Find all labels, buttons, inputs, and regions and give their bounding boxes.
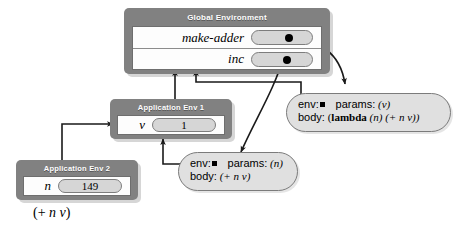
binding-row: inc	[133, 48, 321, 69]
application-env-1-frame: Application Env 1 v 1	[110, 99, 232, 139]
application-env-2-bindings: n 149	[23, 176, 131, 196]
procedure-inc-body-line: body: (+ n v)	[190, 170, 285, 183]
application-env-2-frame: Application Env 2 n 149	[16, 160, 138, 200]
binding-name-n: n	[45, 178, 59, 194]
binding-name-inc: inc	[228, 51, 251, 67]
params-label: params:	[336, 98, 376, 110]
procedure-inc[interactable]: env: params: (n) body: (+ n v)	[178, 152, 298, 191]
expression-vars: n v	[49, 205, 66, 220]
env-pointer-dot	[320, 102, 325, 107]
expression-text: (+ (+ n v)n v)	[33, 205, 70, 221]
body-value: (+ n v)	[220, 170, 251, 182]
pointer-dot-make-adder	[285, 34, 293, 42]
expression-close: )	[66, 205, 71, 220]
body-keyword-lambda: lambda	[331, 111, 366, 123]
pointer-dot-inc	[283, 56, 291, 64]
value-pill-n[interactable]: 149	[58, 179, 122, 193]
params-label: params:	[228, 157, 268, 169]
params-value: (v)	[378, 98, 390, 110]
procedure-inc-env-line: env: params: (n)	[190, 157, 285, 170]
wire-app-env-2-to-app-env-1	[62, 124, 113, 160]
global-environment-title: Global Environment	[127, 11, 327, 24]
pointer-pill-inc[interactable]	[251, 52, 313, 67]
wire-app-env-1-to-global	[146, 70, 175, 101]
value-pill-v[interactable]: 1	[152, 118, 216, 132]
procedure-make-adder[interactable]: env: params: (v) body: (lambda (n) (+ n …	[286, 93, 451, 132]
global-environment-frame: Global Environment make-adder inc	[124, 8, 330, 74]
application-env-2-title: Application Env 2	[19, 163, 135, 175]
environment-diagram: Global Environment make-adder inc Applic…	[0, 0, 456, 236]
application-env-1-title: Application Env 1	[113, 102, 229, 114]
body-rest: (n) (+ n v))	[370, 111, 420, 123]
binding-name-v: v	[139, 117, 152, 133]
procedure-make-adder-body-line: body: (lambda (n) (+ n v))	[298, 111, 438, 124]
pointer-pill-make-adder[interactable]	[251, 30, 313, 45]
body-label: body:	[190, 170, 217, 182]
binding-row: n 149	[24, 177, 130, 195]
body-label: body:	[298, 111, 325, 123]
binding-row: make-adder	[133, 27, 321, 48]
global-environment-bindings: make-adder inc	[132, 26, 322, 70]
procedure-make-adder-env-line: env: params: (v)	[298, 98, 438, 111]
value-n: 149	[82, 180, 99, 192]
value-v: 1	[181, 119, 187, 131]
application-env-1-bindings: v 1	[117, 115, 225, 135]
env-label: env:	[298, 98, 319, 110]
params-value: (n)	[270, 157, 283, 169]
binding-row: v 1	[118, 116, 224, 134]
binding-name-make-adder: make-adder	[182, 30, 251, 46]
env-pointer-dot	[212, 161, 217, 166]
expression-open: (+	[33, 205, 49, 220]
env-label: env:	[190, 157, 211, 169]
